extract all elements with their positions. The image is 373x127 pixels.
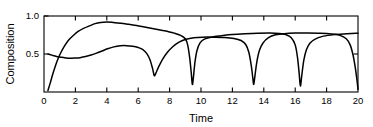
x-tick-label: 12 bbox=[227, 95, 238, 106]
x-tick-label: 4 bbox=[104, 95, 109, 106]
x-tick-label: 6 bbox=[136, 95, 141, 106]
x-tick-label: 2 bbox=[73, 95, 78, 106]
x-tick-label: 16 bbox=[290, 95, 301, 106]
composition-time-line-chart: 02468101214161820 0.51.0 Time Compositio… bbox=[0, 0, 373, 127]
x-tick-label: 8 bbox=[167, 95, 172, 106]
chart-figure: 02468101214161820 0.51.0 Time Compositio… bbox=[0, 0, 373, 127]
y-axis-label: Composition bbox=[4, 23, 16, 84]
x-tick-label: 20 bbox=[353, 95, 364, 106]
y-tick-label: 1.0 bbox=[26, 10, 39, 21]
x-tick-label: 0 bbox=[41, 95, 46, 106]
x-tick-label: 14 bbox=[259, 95, 270, 106]
y-tick-label: 0.5 bbox=[26, 48, 39, 59]
x-axis-label: Time bbox=[189, 112, 213, 124]
x-tick-label: 18 bbox=[321, 95, 332, 106]
x-tick-label: 10 bbox=[196, 95, 207, 106]
